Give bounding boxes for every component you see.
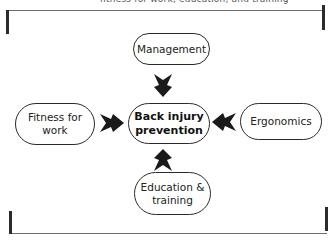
top-bracket-right-tick [322, 5, 325, 30]
bottom-bracket-right-tick [325, 207, 328, 231]
node-ergonomics: Ergonomics [240, 103, 322, 140]
top-bracket-left-tick [6, 10, 9, 34]
education-label-line-1: Education & [141, 181, 205, 194]
arrow-right-icon [99, 113, 125, 133]
center-label-line-1: Back injury [134, 110, 203, 124]
fitness-label-line-1: Fitness for [28, 111, 82, 124]
bottom-bracket-line [10, 233, 327, 234]
node-education-training: Education & training [134, 172, 211, 215]
node-management: Management [133, 33, 210, 65]
node-management-label: Management [137, 43, 206, 56]
arrow-up-icon [153, 148, 173, 172]
arrow-down-icon [153, 73, 173, 98]
arrow-left-icon [211, 112, 237, 132]
education-label-line-2: training [141, 194, 205, 207]
header-caption-fragment: fitness for work, education, and trainin… [100, 0, 300, 4]
node-back-injury-prevention: Back injury prevention [128, 103, 210, 144]
bottom-bracket-left-tick [9, 211, 12, 234]
node-fitness-for-work: Fitness for work [15, 103, 95, 145]
fitness-label-line-2: work [28, 124, 82, 137]
center-label-line-2: prevention [134, 124, 203, 138]
top-bracket-line [7, 10, 324, 11]
ergonomics-label: Ergonomics [250, 115, 311, 128]
